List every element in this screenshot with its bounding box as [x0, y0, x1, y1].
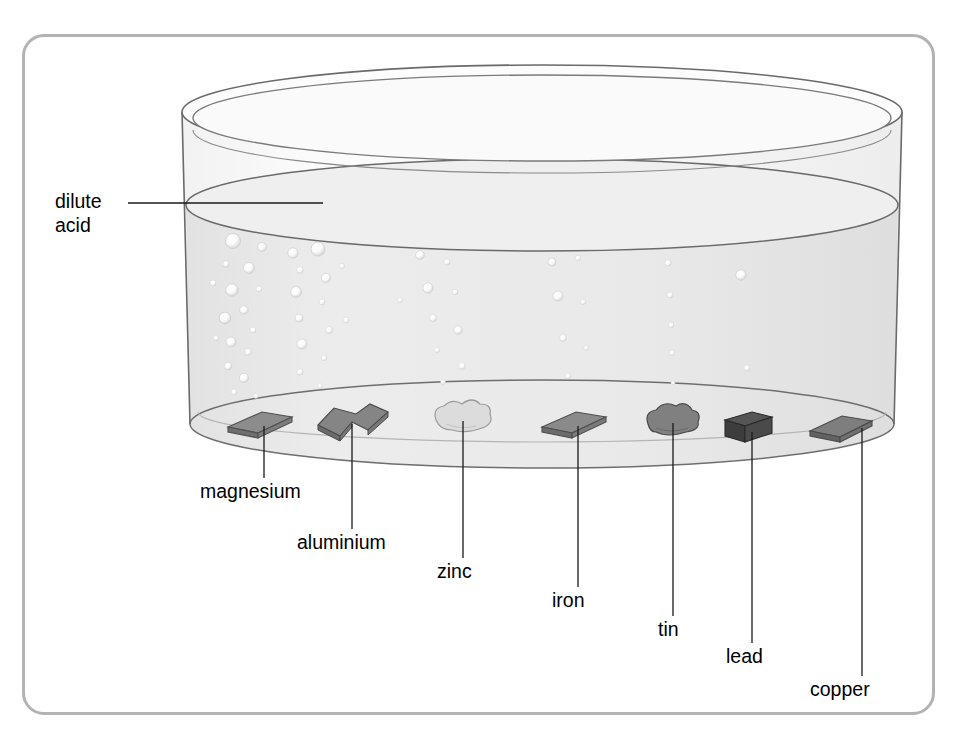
- label-magnesium: magnesium: [200, 480, 301, 504]
- label-copper: copper: [810, 678, 870, 702]
- label-dilute-acid: dilute acid: [55, 190, 102, 238]
- label-tin: tin: [658, 618, 679, 642]
- label-dilute-acid-line2: acid: [55, 214, 102, 238]
- beaker-rim-inner: [193, 75, 891, 161]
- diagram-stage: dilute acid magnesium aluminium zinc iro…: [0, 0, 956, 746]
- label-lead: lead: [726, 645, 763, 669]
- label-dilute-acid-line1: dilute: [55, 190, 102, 214]
- beaker-illustration: [0, 0, 956, 746]
- label-iron: iron: [552, 589, 585, 613]
- label-zinc: zinc: [437, 560, 472, 584]
- label-aluminium: aluminium: [297, 531, 386, 555]
- beaker-body: [182, 65, 902, 468]
